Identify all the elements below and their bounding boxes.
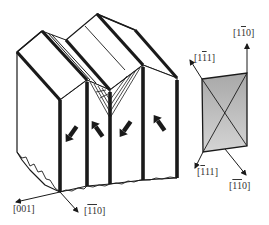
inset-label-bottomright: [110] (229, 180, 250, 191)
axis-001-arrow (16, 192, 60, 202)
axis-1b1b0-arrow (60, 192, 78, 212)
inset-cell (190, 44, 247, 175)
axis-label-1b1b0-main: [110] (84, 205, 105, 216)
crystal-domain-diagram: [001] [110] [110] [111] [111] [110] (0, 0, 269, 225)
axis-label-001: [001] (13, 203, 35, 214)
crystal-block (17, 14, 177, 192)
front-face-2 (60, 80, 87, 192)
inset-label-bottomleft: [111] (197, 166, 218, 177)
inset-axis-1b1b0 (225, 149, 246, 175)
inset-label-topleft: [111] (194, 52, 215, 63)
inset-label-top: [110] (233, 27, 254, 38)
